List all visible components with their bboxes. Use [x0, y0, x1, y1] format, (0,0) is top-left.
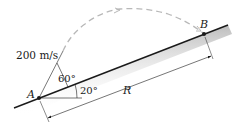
incline-angle-label: 20° — [80, 85, 98, 96]
point-b — [202, 32, 206, 36]
point-b-label: B — [199, 18, 208, 31]
point-a — [37, 96, 41, 100]
velocity-label: 200 m/s — [16, 49, 58, 61]
incline-line — [14, 25, 228, 108]
launch-angle-label: 60° — [58, 73, 76, 84]
range-label: R — [122, 84, 131, 97]
point-a-label: A — [26, 88, 35, 101]
projectile-diagram: 200 m/s 60° 20° A B R — [0, 0, 242, 132]
incline-ground-shade — [14, 25, 232, 117]
